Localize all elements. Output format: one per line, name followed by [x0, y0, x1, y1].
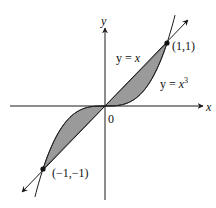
label-point-neg1-neg1: (−1,−1) [52, 166, 89, 180]
point-1-1 [164, 40, 169, 45]
x-axis-label: x [205, 100, 212, 114]
y-axis-label: y [100, 14, 107, 28]
plot-svg: y x 0 y = x y = x3 (1,1) (−1,−1) [0, 0, 216, 208]
origin-label: 0 [108, 112, 114, 126]
label-y-equals-x-cubed: y = x3 [160, 76, 188, 91]
label-point-1-1: (1,1) [172, 39, 195, 53]
diagram-canvas: y x 0 y = x y = x3 (1,1) (−1,−1) [0, 0, 216, 208]
point-neg1-neg1 [40, 166, 45, 171]
label-y-equals-x: y = x [116, 51, 141, 65]
